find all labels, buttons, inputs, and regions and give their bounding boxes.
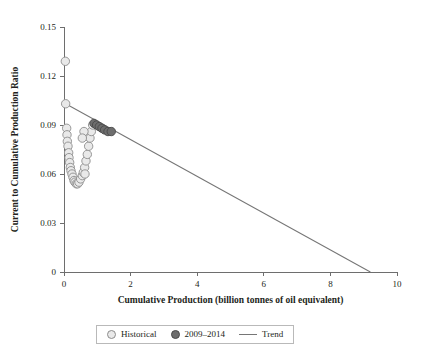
x-tick-label: 4 [195,279,200,289]
historical-data-point [83,150,91,158]
recent-data-point [107,127,115,135]
y-tick-label: 0.09 [40,120,56,130]
historical-data-point [84,142,92,150]
y-tick-label: 0 [52,267,57,277]
legend-item-recent: 2009–2014 [171,330,226,339]
historical-data-point [78,134,86,142]
historical-circle-icon [107,330,116,339]
historical-data-point [61,57,69,65]
x-axis-title: Cumulative Production (billion tonnes of… [118,295,344,306]
x-tick-label: 6 [262,279,267,289]
historical-data-point [61,100,69,108]
x-tick-label: 8 [328,279,333,289]
x-tick-label: 10 [393,279,403,289]
axis-titles-group: Cumulative Production (billion tonnes of… [10,67,343,306]
y-axis-title: Current to Cumulative Production Ratio [10,67,20,233]
historical-data-point [81,170,89,178]
legend-label-historical: Historical [121,330,157,339]
axes-group: 024681000.030.060.090.120.15 [40,22,402,289]
y-tick-label: 0.15 [40,22,56,32]
y-tick-label: 0.03 [40,218,56,228]
recent-circle-icon [171,330,180,339]
y-tick-label: 0.12 [40,71,56,81]
legend-item-trend: Trend [239,330,283,339]
trend-line-icon [239,334,257,335]
chart-figure: 024681000.030.060.090.120.15 Cumulative … [0,0,424,354]
legend-label-trend: Trend [262,330,283,339]
x-tick-label: 0 [62,279,67,289]
legend-label-recent: 2009–2014 [185,330,226,339]
y-tick-label: 0.06 [40,169,56,179]
chart-legend: Historical 2009–2014 Trend [96,325,294,344]
legend-item-historical: Historical [107,330,157,339]
scatter-plot-svg: 024681000.030.060.090.120.15 Cumulative … [0,0,424,354]
x-tick-label: 2 [128,279,133,289]
data-points-group [61,57,115,188]
